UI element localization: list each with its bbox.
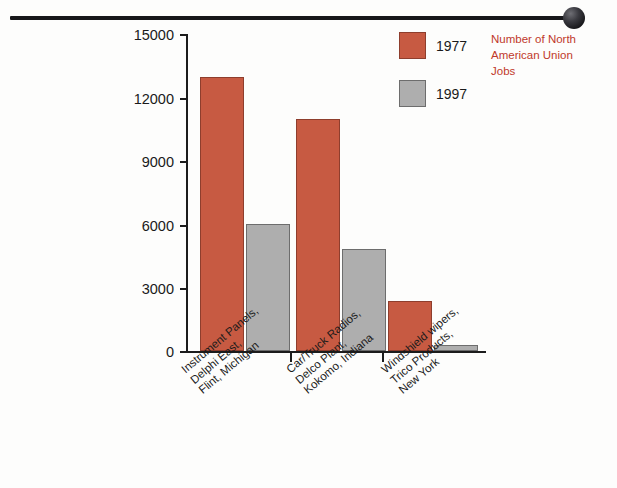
y-tick-label: 12000 [134, 92, 174, 107]
y-axis-line [186, 34, 188, 353]
y-tick-label: 15000 [134, 28, 174, 43]
legend-label-1977: 1977 [436, 39, 467, 53]
chart-title: Number of North American Union Jobs [491, 31, 611, 79]
legend-swatch-1977-icon [399, 32, 426, 59]
y-tick-mark [180, 34, 188, 36]
chart-legend: 1977 1997 [399, 32, 479, 110]
top-rule-divider [10, 16, 572, 20]
legend-swatch-1997-icon [399, 80, 426, 107]
chart-title-line: Number of North [491, 31, 611, 47]
y-tick-mark [180, 161, 188, 163]
y-tick-label: 0 [166, 345, 174, 360]
y-tick-label: 9000 [142, 155, 174, 170]
bar-1977-car-truck-radios [296, 119, 340, 351]
legend-label-1997: 1997 [436, 87, 467, 101]
chart-title-line: American Union [491, 47, 611, 63]
y-tick-mark [180, 288, 188, 290]
y-tick-mark [180, 98, 188, 100]
chart-title-line: Jobs [491, 63, 611, 79]
chart-figure: 15000 12000 9000 6000 3000 0 Instrument … [0, 0, 617, 488]
y-tick-label: 3000 [142, 282, 174, 297]
x-axis-category-labels: Instrument Panels, Delphi East, Flint, M… [186, 352, 546, 488]
legend-entry-1997: 1997 [399, 80, 467, 107]
y-tick-mark [180, 225, 188, 227]
pin-ball-icon [563, 7, 585, 29]
legend-entry-1977: 1977 [399, 32, 467, 59]
bar-1977-instrument-panels [200, 77, 244, 352]
y-tick-label: 6000 [142, 219, 174, 234]
y-axis-tick-labels: 15000 12000 9000 6000 3000 0 [96, 34, 174, 353]
